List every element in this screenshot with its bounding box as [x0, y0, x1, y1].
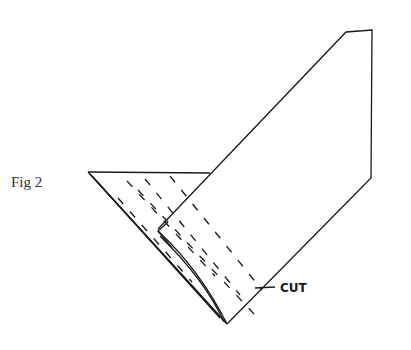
triangle-top-edge [88, 172, 210, 173]
diagram-canvas: Fig 2 CUT [0, 0, 411, 350]
dashed-fold-lines [118, 176, 262, 315]
cut-label: CUT [280, 281, 308, 295]
folded-paper-diagram: CUT [0, 0, 411, 350]
cut-marker-line [255, 287, 275, 288]
